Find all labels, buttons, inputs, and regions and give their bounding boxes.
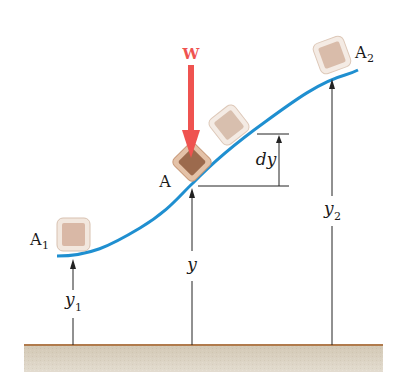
block-a2	[311, 34, 352, 75]
svg-text:2: 2	[334, 210, 341, 223]
height-label-y2: y 2	[323, 198, 341, 223]
block-a1	[57, 218, 90, 251]
svg-text:A: A	[29, 230, 42, 249]
ground	[24, 345, 383, 372]
block-displaced	[207, 103, 252, 148]
svg-text:y: y	[64, 289, 75, 309]
weight-force-arrow	[182, 65, 200, 158]
svg-text:1: 1	[75, 301, 82, 314]
point-label-a2: A 2	[354, 43, 374, 65]
force-label-w: W	[182, 45, 201, 63]
height-label-y1: y 1	[64, 289, 82, 314]
point-label-a: A	[158, 172, 171, 191]
work-of-weight-diagram: W A A 1 A 2 dy y y 1 y 2	[0, 0, 404, 373]
svg-text:1: 1	[42, 239, 49, 252]
point-label-a1: A 1	[29, 230, 49, 252]
svg-text:y: y	[323, 198, 334, 218]
height-label-y: y	[186, 254, 197, 274]
svg-text:2: 2	[367, 52, 374, 65]
dy-label: dy	[256, 149, 277, 169]
svg-text:A: A	[354, 43, 367, 62]
